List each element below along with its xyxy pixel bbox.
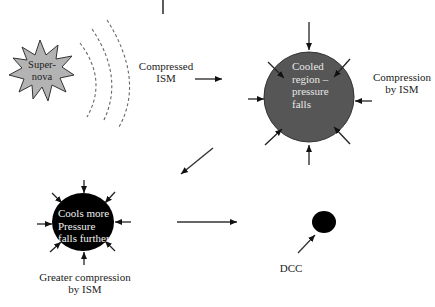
dcc-pointer-arrow bbox=[298, 235, 315, 253]
supernova-label: Super- nova bbox=[22, 59, 62, 83]
shock-wave-arc-1 bbox=[80, 43, 96, 117]
compression-by-ism-line1: Compression bbox=[370, 71, 434, 83]
cooled-region-line4: falls bbox=[292, 98, 342, 111]
dcc-label: DCC bbox=[276, 262, 306, 274]
compressed-ism-label: Compressed ISM bbox=[134, 60, 198, 84]
shock-wave-arc-2 bbox=[92, 29, 112, 122]
greater-compression-line2: by ISM bbox=[30, 283, 140, 295]
supernova-label-line1: Super- bbox=[22, 59, 62, 71]
cooled-region-line1: Cooled bbox=[292, 60, 342, 73]
cools-more-line2: Pressure bbox=[58, 220, 118, 233]
compression-by-ism-label: Compression by ISM bbox=[370, 71, 434, 95]
cooled-region-label: Cooled region – pressure falls bbox=[292, 60, 342, 110]
compressed-ism-line2: ISM bbox=[134, 72, 198, 84]
supernova-label-line2: nova bbox=[22, 71, 62, 83]
diagram-canvas bbox=[0, 0, 435, 307]
shock-wave-arc-3 bbox=[107, 20, 130, 127]
arrow-cooled-to-coolsmore bbox=[181, 148, 213, 174]
cooled-region-line2: region – bbox=[292, 73, 342, 86]
cooled-region-line3: pressure bbox=[292, 85, 342, 98]
cools-more-label: Cools more Pressure falls further bbox=[58, 207, 118, 245]
greater-compression-label: Greater compression by ISM bbox=[30, 271, 140, 295]
cools-more-line3: falls further bbox=[58, 232, 118, 245]
dcc-dot bbox=[312, 211, 336, 233]
cools-more-line1: Cools more bbox=[58, 207, 118, 220]
compressed-ism-line1: Compressed bbox=[134, 60, 198, 72]
greater-compression-line1: Greater compression bbox=[30, 271, 140, 283]
compression-by-ism-line2: by ISM bbox=[370, 83, 434, 95]
